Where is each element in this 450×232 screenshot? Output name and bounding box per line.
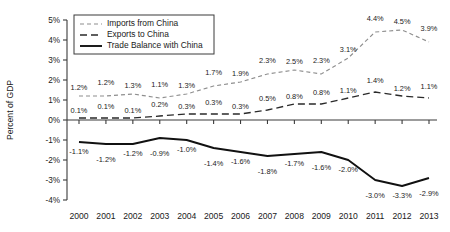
data-label-exports: 1.1% [421, 82, 438, 91]
x-axis: 2000200120022003200420052006200720082009… [67, 120, 439, 221]
data-label-exports: 0.2% [151, 100, 168, 109]
data-label-imports: 2.5% [286, 57, 303, 66]
data-label-imports: 1.9% [232, 69, 249, 78]
x-axis-tick-label: 2011 [366, 211, 385, 221]
data-label-trade-balance: -1.6% [312, 163, 332, 172]
data-label-imports: 4.5% [394, 17, 411, 26]
data-label-exports: 1.2% [394, 84, 411, 93]
x-axis-tick-label: 2008 [285, 211, 304, 221]
y-axis-tick-label: 5% [48, 16, 60, 25]
data-label-imports: 2.3% [259, 56, 276, 65]
data-label-exports: 0.3% [232, 102, 249, 111]
x-axis-tick-label: 2003 [150, 211, 169, 221]
data-label-imports: 3.9% [421, 24, 438, 33]
y-axis-tick-label: 0% [48, 116, 60, 125]
x-axis-tick-label: 2007 [258, 211, 277, 221]
x-axis-tick-label: 2013 [419, 211, 438, 221]
y-axis-tick-label: 2% [48, 76, 60, 85]
data-label-trade-balance: -1.7% [285, 159, 305, 168]
y-axis-tick-label: 4% [48, 36, 60, 45]
x-axis-tick-label: 2006 [231, 211, 250, 221]
data-label-trade-balance: -2.0% [339, 165, 359, 174]
x-axis-tick-label: 2000 [69, 211, 88, 221]
data-label-imports: 4.4% [367, 14, 384, 23]
data-label-trade-balance: -1.6% [231, 157, 251, 166]
data-label-trade-balance: -1.2% [96, 155, 116, 164]
x-axis-tick-label: 2001 [96, 211, 115, 221]
y-axis-tick-label: 1% [48, 96, 60, 105]
data-label-exports: 0.3% [178, 102, 195, 111]
y-axis-tick-label: -1% [45, 136, 60, 145]
data-label-trade-balance: -1.4% [204, 159, 224, 168]
data-label-trade-balance: -1.1% [69, 147, 89, 156]
data-label-exports: 0.5% [259, 94, 276, 103]
data-label-imports: 1.1% [151, 80, 168, 89]
y-axis-tick-label: -4% [45, 196, 60, 205]
data-label-imports: 2.3% [313, 56, 330, 65]
y-axis-title: Percent of GDP [5, 80, 15, 140]
data-label-trade-balance: -3.3% [392, 191, 412, 200]
data-label-imports: 1.2% [97, 78, 114, 87]
data-label-imports: 1.3% [124, 81, 141, 90]
x-axis-tick-label: 2010 [339, 211, 358, 221]
legend-label: Trade Balance with China [107, 40, 203, 50]
series-line-trade-balance [79, 138, 429, 186]
data-label-exports: 1.4% [367, 76, 384, 85]
data-label-exports: 0.8% [313, 88, 330, 97]
data-label-trade-balance: -1.8% [258, 167, 278, 176]
y-axis-tick-label: -2% [45, 156, 60, 165]
data-label-imports: 1.7% [205, 68, 222, 77]
x-axis-tick-label: 2005 [204, 211, 223, 221]
data-label-exports: 0.1% [124, 106, 141, 115]
x-axis-tick-label: 2012 [393, 211, 412, 221]
chart-legend: Imports from ChinaExports to ChinaTrade … [74, 15, 214, 54]
y-axis: 5%4%3%2%1%0%-1%-2%-3%-4% [45, 16, 67, 205]
data-label-exports: 0.8% [286, 92, 303, 101]
data-label-imports: 1.2% [71, 83, 88, 92]
x-axis-tick-label: 2002 [123, 211, 142, 221]
y-axis-tick-label: 3% [48, 56, 60, 65]
data-label-exports: 1.1% [340, 86, 357, 95]
data-label-trade-balance: -0.9% [150, 149, 170, 158]
legend-label: Imports from China [107, 18, 179, 28]
y-axis-tick-label: -3% [45, 176, 60, 185]
data-label-trade-balance: -2.9% [419, 189, 439, 198]
data-label-exports: 0.1% [97, 102, 114, 111]
data-label-exports: 0.1% [71, 106, 88, 115]
data-label-trade-balance: -1.2% [123, 149, 143, 158]
data-label-imports: 3.1% [340, 45, 357, 54]
x-axis-tick-label: 2009 [312, 211, 331, 221]
data-label-exports: 0.3% [205, 98, 222, 107]
x-axis-tick-label: 2004 [177, 211, 196, 221]
data-label-trade-balance: -1.0% [177, 145, 197, 154]
line-chart: 5%4%3%2%1%0%-1%-2%-3%-4% 200020012002200… [0, 0, 450, 232]
chart-container: 5%4%3%2%1%0%-1%-2%-3%-4% 200020012002200… [0, 0, 450, 232]
data-label-imports: 1.3% [178, 81, 195, 90]
data-label-trade-balance: -3.0% [365, 191, 385, 200]
legend-label: Exports to China [107, 29, 169, 39]
